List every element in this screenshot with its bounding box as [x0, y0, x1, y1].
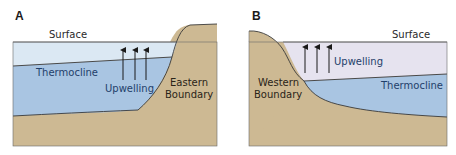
panel-b: B Surface Upwelling Thermocline Western …: [249, 9, 447, 146]
panel-b-upwelling-label: Upwelling: [334, 56, 383, 67]
panel-a-boundary-line1: Eastern: [170, 77, 208, 88]
panel-a: A Surface Thermocline Upwelling Eastern …: [13, 9, 217, 146]
upwelling-diagram: A Surface Thermocline Upwelling Eastern …: [0, 0, 456, 155]
panel-b-label: B: [252, 9, 261, 23]
panel-b-thermocline-label: Thermocline: [380, 80, 443, 91]
panel-b-boundary-line2: Boundary: [254, 89, 302, 100]
panel-b-boundary-line1: Western: [258, 77, 299, 88]
panel-a-label: A: [15, 9, 24, 23]
panel-a-thermocline-label: Thermocline: [35, 67, 98, 78]
panel-a-upwelling-label: Upwelling: [105, 83, 154, 94]
panel-a-boundary-line2: Boundary: [165, 89, 213, 100]
panel-b-surface-label: Surface: [392, 29, 430, 40]
panel-a-surface-label: Surface: [49, 29, 87, 40]
